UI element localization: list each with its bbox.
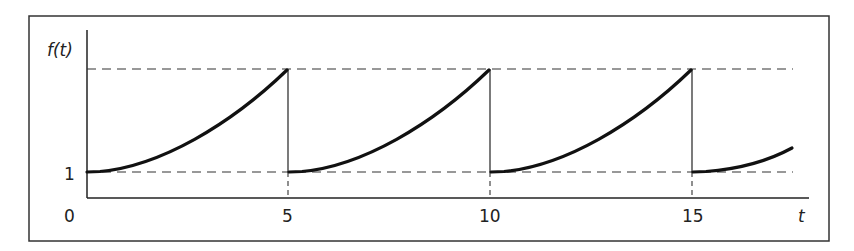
y-tick-1: 1 [64, 164, 75, 184]
chart-figure: f(t) 1 0 5 10 15 t [0, 0, 854, 251]
function-curve [87, 70, 792, 172]
x-axis-label: t [798, 206, 806, 226]
figure-frame [29, 16, 829, 241]
x-tick-5: 5 [282, 206, 293, 226]
y-axis-label: f(t) [47, 40, 73, 60]
curve-segment-1 [87, 70, 287, 172]
curve-segment-3 [491, 70, 691, 172]
curve-segment-2 [289, 70, 489, 172]
x-tick-10: 10 [479, 206, 501, 226]
curve-segment-4 [693, 148, 792, 172]
x-tick-0: 0 [64, 206, 75, 226]
x-tick-15: 15 [682, 206, 704, 226]
